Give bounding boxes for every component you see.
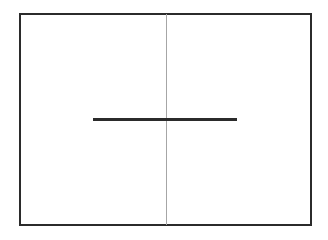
horizontal-bar-line xyxy=(93,118,237,121)
